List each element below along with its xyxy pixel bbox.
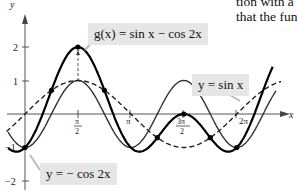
y-axis-arrow-icon bbox=[22, 14, 28, 24]
svg-text:−2: −2 bbox=[5, 176, 16, 187]
curve-g-x bbox=[8, 47, 273, 152]
svg-text:2: 2 bbox=[13, 42, 18, 53]
svg-text:π: π bbox=[126, 116, 131, 126]
svg-text:x: x bbox=[288, 109, 294, 120]
svg-text:3π: 3π bbox=[177, 117, 185, 126]
label-neg-cos-2x: y = − cos 2x bbox=[40, 163, 117, 185]
svg-text:2π: 2π bbox=[239, 116, 249, 126]
label-g-function: g(x) = sin x − cos 2x bbox=[88, 23, 208, 45]
svg-text:2: 2 bbox=[180, 127, 184, 136]
svg-text:2: 2 bbox=[75, 127, 79, 136]
svg-text:y: y bbox=[9, 0, 15, 10]
svg-text:1: 1 bbox=[13, 76, 18, 87]
label-sin-x: y = sin x bbox=[192, 74, 249, 96]
svg-text:π: π bbox=[75, 117, 79, 126]
